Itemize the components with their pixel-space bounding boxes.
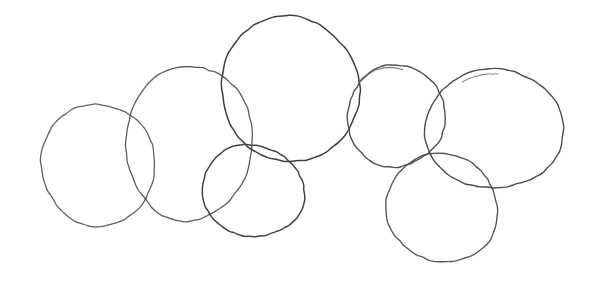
hand-drawn-circles-drawing [0, 0, 599, 285]
sketch-canvas [0, 0, 599, 285]
drawing-background [0, 0, 599, 285]
